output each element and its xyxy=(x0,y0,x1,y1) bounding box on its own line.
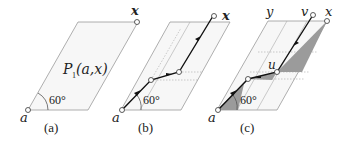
angle-label: 60° xyxy=(240,93,257,107)
start-node xyxy=(216,108,221,113)
end-node xyxy=(135,20,140,25)
v-label: v xyxy=(301,4,309,19)
end-label: x xyxy=(221,8,230,23)
region-label-args: (a,x) xyxy=(76,61,108,77)
caption: (c) xyxy=(240,120,254,135)
angle-label: 60° xyxy=(49,93,66,107)
start-label: a xyxy=(208,110,216,125)
bend-node xyxy=(177,70,182,75)
figure: a x P 1 (a,x) 60° (a) a x 60° (b) xyxy=(0,0,349,145)
angle-label: 60° xyxy=(143,93,160,107)
end-label: x xyxy=(130,3,139,18)
corner-label: y xyxy=(265,4,274,19)
panel-a: a x P 1 (a,x) 60° (a) xyxy=(20,3,140,135)
caption: (a) xyxy=(44,120,58,135)
parallelogram-region xyxy=(121,22,230,110)
end-node xyxy=(212,14,217,19)
v-node xyxy=(311,13,316,18)
start-label: a xyxy=(112,110,120,125)
end-node xyxy=(325,19,330,24)
start-node xyxy=(120,108,125,113)
end-label: x xyxy=(325,4,333,19)
start-label: a xyxy=(20,110,28,125)
caption: (b) xyxy=(138,120,153,135)
bend-node xyxy=(149,78,154,83)
bend-node xyxy=(246,77,251,82)
u-label: u xyxy=(268,58,276,72)
